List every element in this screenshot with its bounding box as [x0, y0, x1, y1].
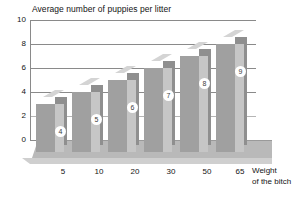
puppies-per-litter-bar-chart: Average number of puppies per litter 10 … — [0, 0, 296, 199]
bar-top-5 — [43, 90, 64, 97]
bar-highlight-30 — [163, 68, 172, 152]
x-tick-label-10: 10 — [88, 167, 110, 176]
bar-value-badge-10: 5 — [91, 114, 102, 125]
bar-front-65 — [216, 44, 235, 152]
bar-value-badge-5: 4 — [55, 126, 66, 137]
x-tick-label-50: 50 — [196, 167, 218, 176]
bar-value-badge-20: 6 — [127, 102, 138, 113]
bar-front-20 — [108, 80, 127, 152]
x-tick-label-30: 30 — [160, 167, 182, 176]
bar-top-10 — [79, 78, 100, 85]
bar-highlight-20 — [127, 80, 136, 152]
bar-front-30 — [144, 68, 163, 152]
bar-value-badge-50: 8 — [199, 78, 210, 89]
bar-top-20 — [115, 66, 136, 73]
x-axis-title: Weight of the bitch — [252, 166, 296, 187]
bar-front-10 — [72, 92, 91, 152]
bar-front-50 — [180, 56, 199, 152]
bar-front-5 — [36, 104, 55, 152]
x-axis-title-line1: Weight — [252, 166, 296, 177]
bar-top-50 — [187, 42, 208, 49]
bar-highlight-65 — [235, 44, 244, 152]
x-axis-title-line2: of the bitch — [252, 177, 296, 188]
bar-value-badge-65: 9 — [235, 66, 246, 77]
bar-highlight-50 — [199, 56, 208, 152]
x-tick-label-20: 20 — [124, 167, 146, 176]
x-tick-label-5: 5 — [52, 167, 74, 176]
bar-value-badge-30: 7 — [163, 90, 174, 101]
bar-top-30 — [151, 54, 172, 61]
x-tick-label-65: 65 — [229, 167, 251, 176]
bar-top-65 — [223, 30, 244, 37]
